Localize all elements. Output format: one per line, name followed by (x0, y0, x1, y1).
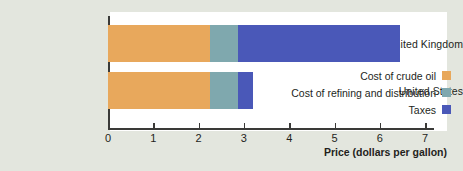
legend-item: Cost of refining and distribution (191, 85, 451, 100)
bar-segment (238, 25, 400, 62)
x-tick-label: 2 (187, 132, 211, 144)
bar-segment (108, 25, 210, 62)
legend-label: Cost of refining and distribution (291, 87, 436, 99)
x-tick-mark (199, 123, 201, 130)
bar-segment (210, 25, 238, 62)
x-tick-mark (380, 123, 382, 130)
x-tick-label: 1 (141, 132, 165, 144)
legend-swatch (442, 88, 451, 97)
x-tick-mark (289, 123, 291, 130)
x-tick-label: 3 (232, 132, 256, 144)
x-tick-mark (153, 123, 155, 130)
legend-label: Taxes (409, 104, 436, 116)
legend-swatch (442, 71, 451, 80)
bar-united-kingdom (0, 25, 463, 62)
x-tick-mark (244, 123, 246, 130)
x-axis-title: Price (dollars per gallon) (324, 146, 447, 158)
x-tick-label: 0 (96, 132, 120, 144)
legend: Cost of crude oilCost of refining and di… (191, 68, 451, 119)
x-tick-mark (425, 123, 427, 130)
legend-item: Cost of crude oil (191, 68, 451, 83)
x-tick-label: 5 (323, 132, 347, 144)
x-tick-label: 6 (368, 132, 392, 144)
legend-item: Taxes (191, 102, 451, 117)
chart-figure: United Kingdom United States 01234567 Pr… (0, 0, 463, 171)
legend-label: Cost of crude oil (360, 70, 436, 82)
x-tick-label: 4 (277, 132, 301, 144)
x-tick-label: 7 (413, 132, 437, 144)
x-tick-mark (108, 123, 110, 130)
x-axis-line (108, 128, 434, 130)
x-tick-mark (335, 123, 337, 130)
legend-swatch (442, 105, 451, 114)
